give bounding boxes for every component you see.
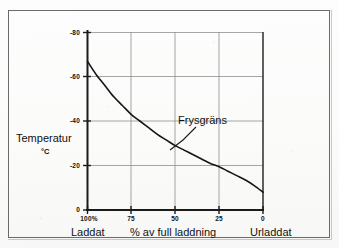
x-tick-label-4: 0 (261, 216, 265, 223)
x-axis-center-label: % av full laddning (130, 227, 216, 238)
y-axis-title: Temperatur (16, 133, 72, 144)
y-tick-label-1: -60 (62, 73, 80, 80)
x-tick-label-1: 75 (127, 216, 135, 223)
annotation-leader-line (170, 127, 196, 150)
annotation-label-frysgrans: Frysgräns (178, 115, 227, 126)
x-tick-label-0: 100% (80, 216, 97, 223)
chart-svg (0, 0, 339, 248)
y-tick-label-3: -20 (62, 162, 80, 169)
x-tick-label-2: 50 (171, 216, 179, 223)
y-tick-label-0: -80 (62, 29, 80, 36)
x-axis-left-label: Laddat (71, 227, 105, 238)
chart-figure: -80 -60 -40 -20 0 100% 75 50 25 0 Temper… (0, 0, 339, 248)
y-tick-label-4: 0 (62, 207, 80, 214)
x-tick-label-3: 25 (215, 216, 223, 223)
y-tick-label-2: -40 (62, 118, 80, 125)
x-axis-right-label: Urladdat (250, 227, 292, 238)
y-axis-unit: °C (41, 148, 49, 156)
